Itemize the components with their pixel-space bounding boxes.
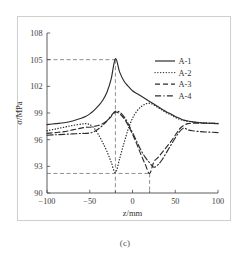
legend-label-a-3: A-3 xyxy=(179,80,192,89)
data-curves xyxy=(47,59,218,174)
x-tick-label: 50 xyxy=(171,197,179,206)
y-axis-ticks xyxy=(47,33,50,193)
x-tick-label: −100 xyxy=(39,197,56,206)
y-tick-label: 108 xyxy=(30,29,42,38)
legend-label-a-4: A-4 xyxy=(179,92,193,101)
legend-label-a-1: A-1 xyxy=(179,57,192,66)
figure-container: 90939699102105108 −100−50050100 z/mm σ/M… xyxy=(0,0,250,263)
x-tick-label: −50 xyxy=(83,197,96,206)
guide-lines xyxy=(47,60,150,193)
y-axis-title: σ/MPa xyxy=(14,101,24,124)
y-axis-tick-labels: 90939699102105108 xyxy=(30,29,42,198)
y-tick-label: 99 xyxy=(34,109,42,118)
figure-caption: (c) xyxy=(0,238,250,248)
x-tick-label: 0 xyxy=(130,197,134,206)
x-axis-tick-labels: −100−50050100 xyxy=(39,197,225,206)
y-tick-label: 105 xyxy=(30,56,42,65)
curve-a-1 xyxy=(47,59,218,125)
legend-label-a-2: A-2 xyxy=(179,69,192,78)
curve-a-2 xyxy=(47,103,218,172)
y-tick-label: 96 xyxy=(34,136,42,145)
y-tick-label: 93 xyxy=(34,162,42,171)
x-tick-label: 100 xyxy=(212,197,224,206)
x-axis-ticks xyxy=(47,190,218,193)
y-tick-label: 102 xyxy=(30,82,42,91)
chart-legend: A-1A-2A-3A-4 xyxy=(155,57,192,101)
stress-distribution-chart: 90939699102105108 −100−50050100 z/mm σ/M… xyxy=(0,0,250,263)
axes xyxy=(47,33,218,193)
x-axis-title: z/mm xyxy=(123,208,143,218)
